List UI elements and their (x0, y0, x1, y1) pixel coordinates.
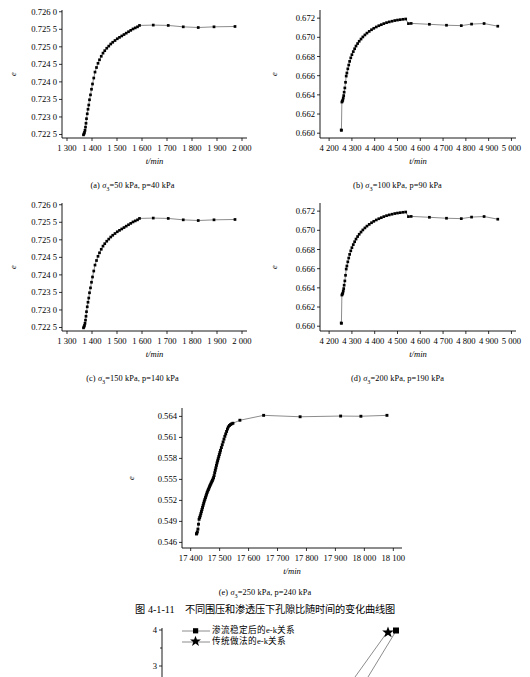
svg-text:0.725 5: 0.725 5 (31, 217, 57, 227)
svg-text:5 000: 5 000 (502, 336, 521, 346)
svg-text:0.723 0: 0.723 0 (31, 305, 57, 315)
caption-c-rest: =150 kPa, p=140 kPa (105, 374, 179, 383)
svg-text:0.724 0: 0.724 0 (31, 270, 57, 280)
caption-b-prefix: (b) (353, 181, 363, 190)
svg-text:18 000: 18 000 (353, 553, 377, 563)
svg-text:4 200: 4 200 (319, 336, 338, 346)
svg-text:4 700: 4 700 (433, 143, 452, 153)
caption-c-prefix: (c) (86, 374, 96, 383)
svg-text:4 700: 4 700 (433, 336, 452, 346)
svg-text:17 500: 17 500 (208, 553, 232, 563)
svg-text:0.670: 0.670 (296, 225, 315, 235)
svg-text:e: e (269, 72, 279, 76)
svg-text:2 000: 2 000 (232, 143, 251, 153)
svg-text:17 800: 17 800 (295, 553, 319, 563)
svg-text:1 800: 1 800 (182, 336, 201, 346)
svg-text:0.662: 0.662 (296, 302, 315, 312)
svg-text:0.660: 0.660 (296, 128, 315, 138)
svg-text:0.552: 0.552 (158, 495, 177, 505)
svg-text:0.666: 0.666 (296, 264, 316, 274)
caption-d-rest: =200 kPa, p=190 kPa (371, 374, 445, 383)
svg-text:0.723 0: 0.723 0 (31, 112, 57, 122)
chart-d: 0.6600.6620.6640.6660.6680.6700.6724 200… (265, 193, 530, 371)
svg-text:0.564: 0.564 (158, 411, 178, 421)
svg-text:1 500: 1 500 (107, 336, 126, 346)
svg-text:t/min: t/min (146, 349, 164, 359)
svg-text:0.726 0: 0.726 0 (31, 7, 57, 17)
svg-text:e: e (126, 476, 136, 480)
svg-text:0.662: 0.662 (296, 109, 315, 119)
svg-text:0.664: 0.664 (296, 283, 316, 293)
svg-text:1 600: 1 600 (132, 143, 151, 153)
svg-text:0.670: 0.670 (296, 32, 315, 42)
svg-text:1 600: 1 600 (132, 336, 151, 346)
svg-text:0.724 5: 0.724 5 (31, 252, 57, 262)
svg-text:0.668: 0.668 (296, 52, 315, 62)
svg-text:1 300: 1 300 (57, 336, 76, 346)
caption-e-prefix: (e) (219, 588, 229, 597)
svg-text:0.549: 0.549 (158, 516, 177, 526)
svg-text:1 500: 1 500 (107, 143, 126, 153)
svg-text:1 900: 1 900 (207, 336, 226, 346)
svg-text:0.726 0: 0.726 0 (31, 200, 57, 210)
svg-text:0.666: 0.666 (296, 71, 316, 81)
chart-caption-e: (e) σ3=250 kPa, p=240 kPa (110, 588, 420, 599)
caption-e-rest: =250 kPa, p=240 kPa (238, 588, 312, 597)
svg-text:4 600: 4 600 (411, 143, 430, 153)
caption-b-rest: =100 kPa, p=90 kPa (373, 181, 442, 190)
svg-text:0.555: 0.555 (158, 474, 177, 484)
caption-a-rest: =50 kPa, p=40 kPa (110, 181, 175, 190)
svg-text:0.668: 0.668 (296, 245, 315, 255)
svg-text:1 700: 1 700 (157, 336, 176, 346)
chart-panel-b: 0.6600.6620.6640.6660.6680.6700.6724 200… (265, 0, 530, 178)
svg-text:4 300: 4 300 (342, 143, 361, 153)
svg-text:4 200: 4 200 (319, 143, 338, 153)
chart-caption-b: (b) σ3=100 kPa, p=90 kPa (265, 181, 530, 192)
svg-text:5 000: 5 000 (502, 143, 521, 153)
chart-panel-c: 0.722 50.723 00.723 50.724 00.724 50.725… (0, 193, 265, 371)
chart-b: 0.6600.6620.6640.6660.6680.6700.6724 200… (265, 0, 530, 178)
chart-panel-a: 0.722 50.723 00.723 50.724 00.724 50.725… (0, 0, 265, 178)
svg-text:3: 3 (153, 661, 157, 671)
svg-text:0.723 5: 0.723 5 (31, 94, 57, 104)
svg-text:17 400: 17 400 (179, 553, 203, 563)
svg-text:17 700: 17 700 (266, 553, 290, 563)
svg-text:0.725 5: 0.725 5 (31, 24, 57, 34)
svg-text:1 400: 1 400 (82, 336, 101, 346)
svg-text:1 900: 1 900 (207, 143, 226, 153)
svg-text:t/min: t/min (283, 566, 301, 576)
svg-text:0.724 5: 0.724 5 (31, 59, 57, 69)
svg-text:0.558: 0.558 (158, 453, 177, 463)
svg-text:e: e (8, 72, 18, 76)
svg-text:2 000: 2 000 (232, 336, 251, 346)
svg-text:17 600: 17 600 (237, 553, 261, 563)
svg-text:0.722 5: 0.722 5 (31, 322, 57, 332)
figure-title: 图 4-1-11 不同围压和渗透压下孔隙比随时间的变化曲线图 (0, 601, 530, 616)
svg-text:1 300: 1 300 (57, 143, 76, 153)
chart-caption-a: (a) σ3=50 kPa, p=40 kPa (0, 181, 265, 192)
svg-text:4 400: 4 400 (365, 336, 384, 346)
svg-text:4 300: 4 300 (342, 336, 361, 346)
svg-text:18 100: 18 100 (381, 553, 405, 563)
figure-page: 0.722 50.723 00.723 50.724 00.724 50.725… (0, 0, 530, 677)
svg-text:t/min: t/min (146, 156, 164, 166)
svg-text:1 800: 1 800 (182, 143, 201, 153)
chart-caption-d: (d) σ3=200 kPa, p=190 kPa (265, 374, 530, 385)
svg-text:4 800: 4 800 (456, 143, 475, 153)
chart-panel-d: 0.6600.6620.6640.6660.6680.6700.6724 200… (265, 193, 530, 371)
svg-text:0.672: 0.672 (296, 206, 315, 216)
svg-text:0.664: 0.664 (296, 90, 316, 100)
svg-text:4 500: 4 500 (388, 143, 407, 153)
svg-text:e: e (8, 265, 18, 269)
svg-text:4 600: 4 600 (411, 336, 430, 346)
svg-text:e: e (269, 265, 279, 269)
svg-text:0.725 0: 0.725 0 (31, 42, 57, 52)
svg-text:0.561: 0.561 (158, 432, 177, 442)
svg-text:17 900: 17 900 (324, 553, 348, 563)
svg-text:0.672: 0.672 (296, 13, 315, 23)
svg-text:4: 4 (153, 625, 158, 635)
caption-d-prefix: (d) (351, 374, 361, 383)
svg-text:1 400: 1 400 (82, 143, 101, 153)
caption-a-prefix: (a) (90, 181, 100, 190)
svg-text:0.725 0: 0.725 0 (31, 235, 57, 245)
